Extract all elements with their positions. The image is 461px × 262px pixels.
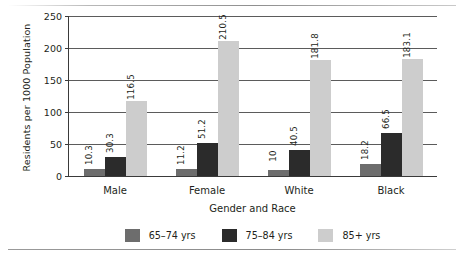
y-axis-title: Residents per 1000 Population: [21, 8, 32, 188]
y-axis-tick-label: 50: [50, 139, 62, 150]
bar-group-bars: 11.251.2210.5: [176, 16, 239, 176]
x-axis-category-label: Female: [176, 185, 239, 196]
bar[interactable]: 10.3: [84, 16, 105, 176]
bar-fill: [268, 170, 289, 176]
bar-group-bars: 10.330.3116.5: [84, 16, 147, 176]
bar-group: 11.251.2210.5Female: [176, 16, 239, 176]
bar[interactable]: 210.5: [218, 16, 239, 176]
bar[interactable]: 51.2: [197, 16, 218, 176]
bar-fill: [84, 169, 105, 176]
legend-label: 85+ yrs: [342, 230, 380, 241]
bar-fill: [126, 101, 147, 176]
y-axis-tick: [65, 80, 69, 81]
bar-value-label: 30.3: [105, 133, 115, 153]
bar[interactable]: 11.2: [176, 16, 197, 176]
bar[interactable]: 18.2: [360, 16, 381, 176]
bar-fill: [176, 169, 197, 176]
legend-swatch: [318, 229, 333, 242]
chart-legend: 65–74 yrs75–84 yrs85+ yrs: [68, 226, 437, 244]
bar-fill: [360, 164, 381, 176]
bar[interactable]: 183.1: [402, 16, 423, 176]
x-axis-category-label: Black: [360, 185, 423, 196]
legend-item[interactable]: 75–84 yrs: [222, 229, 293, 242]
bar-value-label: 11.2: [176, 145, 186, 165]
bar-value-label: 51.2: [197, 119, 207, 139]
bar[interactable]: 116.5: [126, 16, 147, 176]
bar-group: 18.266.5183.1Black: [360, 16, 423, 176]
y-axis-tick-label: 100: [44, 107, 62, 118]
bar-fill: [218, 41, 239, 176]
x-axis-category-label: Male: [84, 185, 147, 196]
bar-value-label: 116.5: [126, 75, 136, 101]
legend-item[interactable]: 65–74 yrs: [125, 229, 196, 242]
bar-value-label: 210.5: [218, 14, 228, 40]
legend-label: 75–84 yrs: [246, 230, 293, 241]
y-axis-tick: [65, 144, 69, 145]
bar-chart-figure: Residents per 1000 Population 0501001502…: [0, 0, 461, 262]
bar[interactable]: 66.5: [381, 16, 402, 176]
bar-fill: [105, 157, 126, 176]
bar[interactable]: 10: [268, 16, 289, 176]
bar-group: 10.330.3116.5Male: [84, 16, 147, 176]
bar-group: 1040.5181.8White: [268, 16, 331, 176]
legend-swatch: [222, 229, 237, 242]
plot-area: 05010015020025010.330.3116.5Male11.251.2…: [68, 16, 437, 177]
bar-fill: [402, 59, 423, 176]
bar-fill: [197, 143, 218, 176]
y-axis-tick-label: 150: [44, 75, 62, 86]
y-axis-tick: [65, 16, 69, 17]
bar-value-label: 18.2: [360, 140, 370, 160]
bar-group-bars: 1040.5181.8: [268, 16, 331, 176]
legend-item[interactable]: 85+ yrs: [318, 229, 380, 242]
bar[interactable]: 40.5: [289, 16, 310, 176]
y-axis-tick: [65, 176, 69, 177]
bar[interactable]: 30.3: [105, 16, 126, 176]
bar-group-bars: 18.266.5183.1: [360, 16, 423, 176]
bar-value-label: 66.5: [381, 109, 391, 129]
bar-value-label: 10: [268, 150, 278, 161]
bar-fill: [381, 133, 402, 176]
bottom-divider-rule: [8, 249, 456, 250]
y-axis-tick: [65, 112, 69, 113]
x-axis-category-label: White: [268, 185, 331, 196]
bar-fill: [289, 150, 310, 176]
bar[interactable]: 181.8: [310, 16, 331, 176]
bar-value-label: 183.1: [402, 32, 412, 58]
legend-swatch: [125, 229, 140, 242]
bar-value-label: 10.3: [84, 145, 94, 165]
x-axis-title: Gender and Race: [68, 203, 437, 214]
y-axis-tick: [65, 48, 69, 49]
y-axis-tick-label: 200: [44, 43, 62, 54]
bar-value-label: 40.5: [289, 126, 299, 146]
bar-value-label: 181.8: [310, 33, 320, 59]
legend-label: 65–74 yrs: [149, 230, 196, 241]
y-axis-tick-label: 0: [56, 171, 62, 182]
bar-fill: [310, 60, 331, 176]
y-axis-tick-label: 250: [44, 11, 62, 22]
